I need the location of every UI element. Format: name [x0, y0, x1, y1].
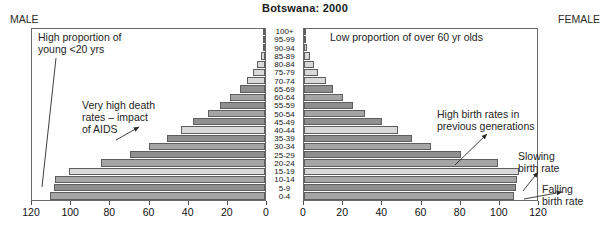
- population-pyramid-chart: Botswana: 2000 MALE FEMALE 0-45-910-1415…: [0, 0, 610, 243]
- annotation-leader-lines: [0, 0, 610, 243]
- leader-slowing: [523, 172, 538, 191]
- leader-young: [42, 58, 56, 187]
- leader-aids: [116, 127, 139, 140]
- leader-highbr: [455, 134, 487, 165]
- leader-falling: [524, 192, 562, 199]
